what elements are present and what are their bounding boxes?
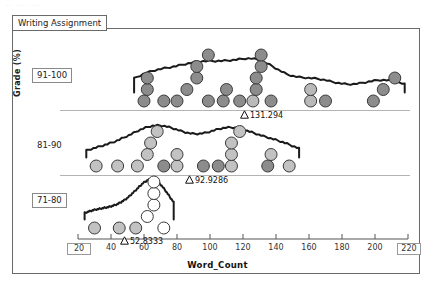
mean-marker-91-100: 131.294: [240, 110, 283, 121]
group-separator-2: [60, 175, 410, 176]
mean-marker-81-90: 92.9286: [185, 175, 228, 186]
x-tick-label-140: 140: [263, 243, 289, 253]
chart-panel: [12, 28, 420, 274]
group-separator-1: [60, 110, 410, 111]
chart-window: .. ... .... Writing Assignment Grade (%)…: [0, 0, 435, 288]
x-tick-label-120: 120: [230, 243, 256, 253]
x-tick-label-60: 60: [131, 243, 157, 253]
mean-value-91-100: 131.294: [250, 111, 283, 120]
group-label-71-80: 71-80: [32, 193, 67, 208]
x-tick-label-100: 100: [197, 243, 223, 253]
group-label-81-90: 81-90: [32, 138, 67, 153]
x-tick-label-80: 80: [164, 243, 190, 253]
faint-header-text: .. ... ....: [6, 0, 186, 7]
x-tick-label-160: 160: [296, 243, 322, 253]
x-tick-label-180: 180: [329, 243, 355, 253]
y-axis-title: Grade (%): [13, 38, 25, 108]
mean-value-81-90: 92.9286: [195, 176, 228, 185]
x-tick-label-20: 20: [67, 243, 91, 255]
x-axis-title: Word_Count: [0, 260, 435, 270]
tab-writing-assignment[interactable]: Writing Assignment: [12, 15, 107, 31]
group-label-91-100: 91-100: [32, 68, 72, 83]
x-tick-label-220: 220: [397, 243, 421, 255]
x-tick-label-40: 40: [98, 243, 124, 253]
x-tick-label-200: 200: [362, 243, 388, 253]
